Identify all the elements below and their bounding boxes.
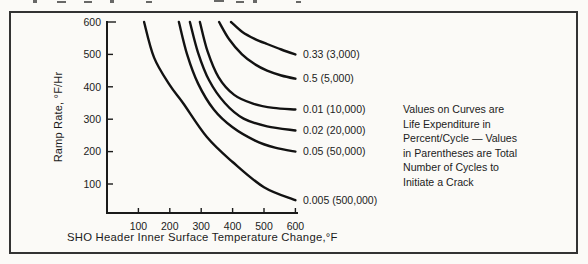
x-tick-label: 300: [192, 220, 210, 232]
x-tick-label: 200: [161, 220, 179, 232]
x-tick-label: 600: [287, 220, 305, 232]
curve-label-0.01: 0.01 (10,000): [303, 103, 365, 115]
x-axis-title: SHO Header Inner Surface Temperature Cha…: [67, 231, 338, 243]
curve-label-0.05: 0.05 (50,000): [303, 145, 365, 157]
y-tick-label: 300: [83, 113, 101, 125]
y-tick-label: 400: [83, 81, 101, 93]
x-tick-label: 400: [224, 220, 242, 232]
curve-values-note: Values on Curves are Life Expenditure in…: [403, 102, 578, 190]
y-tick-label: 200: [83, 145, 101, 157]
curve-label-0.005: 0.005 (500,000): [303, 194, 377, 206]
curve-label-0.33: 0.33 (3,000): [303, 48, 360, 60]
y-tick-label: 500: [83, 48, 101, 60]
x-tick-label: 100: [130, 220, 148, 232]
curve-label-0.5: 0.5 (5,000): [303, 72, 354, 84]
curve-0.33: [231, 22, 295, 54]
curve-0.02: [190, 22, 296, 131]
y-tick-label: 100: [83, 178, 101, 190]
y-tick-label: 600: [83, 16, 101, 28]
figure-scan: 1002003004005006001002003004005006000.33…: [0, 0, 588, 264]
curve-0.05: [179, 22, 296, 152]
y-axis-title: Ramp Rate, °F/Hr: [52, 72, 64, 163]
curve-0.005: [144, 22, 295, 200]
curve-label-0.02: 0.02 (20,000): [303, 124, 365, 136]
x-tick-label: 500: [255, 220, 273, 232]
